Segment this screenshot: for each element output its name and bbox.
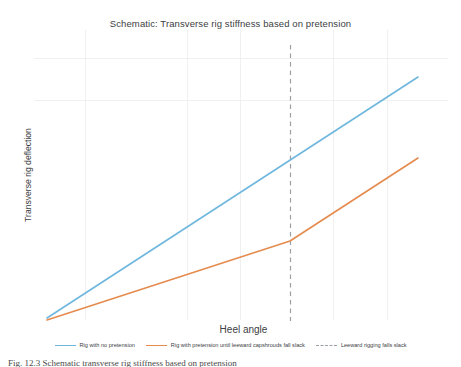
x-axis-label: Heel angle bbox=[47, 324, 440, 335]
series-line-with-pretension bbox=[47, 158, 418, 320]
legend-swatch-icon bbox=[146, 345, 167, 346]
chart-figure: Schematic: Transverse rig stiffness base… bbox=[0, 0, 461, 367]
gridlines bbox=[34, 30, 448, 320]
legend-item-with-pretension[interactable]: Rig with pretension until leeward capshr… bbox=[146, 343, 305, 349]
legend-label: Leeward rigging falls slack bbox=[341, 343, 407, 349]
figure-caption: Fig. 12.3 Schematic transverse rig stiff… bbox=[8, 359, 237, 367]
legend-swatch-dashed-icon bbox=[316, 345, 337, 346]
chart-legend: Rig with no pretension Rig with pretensi… bbox=[0, 343, 461, 349]
legend-label: Rig with pretension until leeward capshr… bbox=[171, 343, 305, 349]
legend-item-leeward-slack[interactable]: Leeward rigging falls slack bbox=[316, 343, 407, 349]
legend-item-no-pretension[interactable]: Rig with no pretension bbox=[55, 343, 135, 349]
legend-swatch-icon bbox=[55, 345, 76, 346]
legend-label: Rig with no pretension bbox=[80, 343, 135, 349]
y-axis-label: Transverse rig deflection bbox=[23, 85, 33, 265]
series-line-no-pretension bbox=[47, 77, 418, 318]
caption-strip: Fig. 12.3 Schematic transverse rig stiff… bbox=[0, 359, 461, 367]
plot-canvas bbox=[0, 0, 461, 367]
